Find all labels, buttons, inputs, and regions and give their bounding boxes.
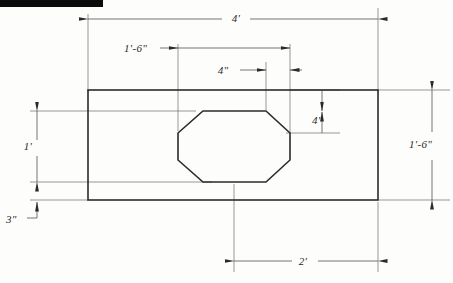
dimension-bottom-offset — [27, 202, 37, 218]
redaction-bar — [0, 0, 103, 7]
label-chamfer-vertical: 4" — [312, 114, 323, 126]
label-overall-width: 4' — [232, 12, 241, 24]
extension-lines — [30, 8, 450, 272]
plate-outline — [88, 90, 378, 200]
label-bottom-offset: 3" — [5, 213, 17, 225]
technical-drawing-svg: 4' 1'-6" 4" 4" 1' 3" — [0, 0, 453, 283]
octagonal-opening — [178, 111, 290, 182]
label-overall-height: 1'-6" — [409, 138, 432, 150]
label-bottom-width: 2' — [299, 255, 308, 267]
label-opening-height: 1' — [24, 140, 33, 152]
label-chamfer-horizontal: 4" — [218, 64, 229, 76]
label-left-offset: 1'-6" — [124, 42, 147, 54]
drawing-canvas: 4' 1'-6" 4" 4" 1' 3" — [0, 0, 453, 283]
